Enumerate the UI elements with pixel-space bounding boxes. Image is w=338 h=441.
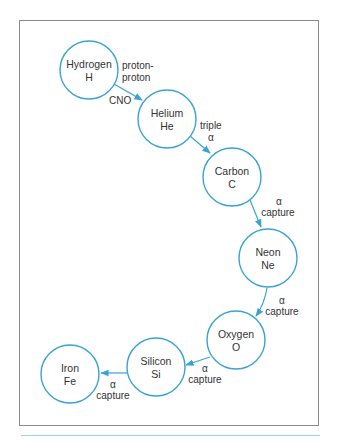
edge-label: α <box>279 295 285 306</box>
edge-label: triple <box>200 120 222 131</box>
node-symbol: Si <box>151 368 160 380</box>
edge-carbon-neon: α capture <box>250 196 295 227</box>
node-silicon: Silicon Si <box>127 338 185 396</box>
edge-label: capture <box>265 306 299 317</box>
node-neon: Neon Ne <box>239 229 297 287</box>
node-symbol: H <box>85 71 93 83</box>
edge-label: α <box>276 196 282 207</box>
edge-label: CNO <box>109 95 131 106</box>
node-name: Neon <box>255 246 280 258</box>
edge-label: capture <box>96 390 130 401</box>
edge-label: α <box>110 379 116 390</box>
nucleosynthesis-diagram: proton- proton CNO triple α α capture α … <box>0 0 338 441</box>
node-symbol: C <box>228 178 236 190</box>
node-name: Silicon <box>141 355 172 367</box>
edge-silicon-iron: α capture <box>96 373 130 401</box>
node-name: Helium <box>151 107 184 119</box>
node-hydrogen: Hydrogen H <box>60 41 118 99</box>
node-name: Iron <box>61 362 79 374</box>
edge-label: capture <box>188 374 222 385</box>
node-name: Hydrogen <box>66 58 112 70</box>
node-carbon: Carbon C <box>203 148 261 206</box>
edge-label: proton- <box>122 60 154 71</box>
node-symbol: He <box>160 120 174 132</box>
node-oxygen: Oxygen O <box>207 311 265 369</box>
node-symbol: Fe <box>64 375 76 387</box>
edge-label: α <box>202 363 208 374</box>
node-name: Oxygen <box>218 328 254 340</box>
node-name: Carbon <box>215 165 250 177</box>
edge-label: capture <box>261 207 295 218</box>
edge-label: α <box>208 132 214 143</box>
node-iron: Iron Fe <box>41 345 99 403</box>
edge-neon-oxygen: α capture <box>256 288 299 317</box>
node-helium: Helium He <box>138 90 196 148</box>
node-symbol: Ne <box>261 259 275 271</box>
node-symbol: O <box>232 341 240 353</box>
edge-label: proton <box>122 72 150 83</box>
